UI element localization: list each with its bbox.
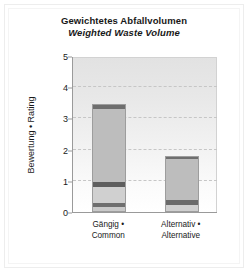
- bar-2[interactable]: [165, 156, 199, 212]
- y-tick-mark-1: [68, 181, 72, 182]
- y-tick-mark-0: [68, 213, 72, 214]
- chart-title-german: Gewichtetes Abfallvolumen: [0, 15, 248, 27]
- y-axis-tick-labels: 012345: [52, 57, 68, 213]
- x-tick-label-2: Alternativ •Alternative: [138, 219, 224, 242]
- x-tick-label-2-line-2: Alternative: [138, 230, 224, 241]
- bar-2-outline: [165, 156, 199, 212]
- plot-area: [72, 57, 217, 213]
- plot-edge-top: [73, 57, 217, 58]
- gridline-y-4: [73, 86, 217, 87]
- chart-title-block: Gewichtetes Abfallvolumen Weighted Waste…: [0, 15, 248, 38]
- chart-figure: Gewichtetes Abfallvolumen Weighted Waste…: [0, 0, 248, 272]
- y-tick-mark-4: [68, 88, 72, 89]
- y-tick-mark-3: [68, 119, 72, 120]
- y-axis-label: Bewertung • Rating: [24, 57, 38, 213]
- bar-1-outline: [92, 104, 126, 212]
- chart-title-english: Weighted Waste Volume: [0, 27, 248, 39]
- x-tick-label-2-line-1: Alternativ •: [138, 219, 224, 230]
- bar-1[interactable]: [92, 104, 126, 212]
- y-tick-mark-2: [68, 150, 72, 151]
- plot-edge-right: [216, 57, 217, 212]
- y-tick-mark-5: [68, 57, 72, 58]
